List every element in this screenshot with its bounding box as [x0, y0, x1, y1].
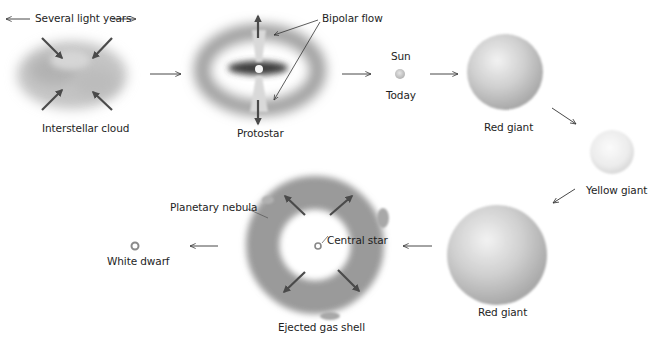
white-dwarf-graphic — [132, 243, 139, 250]
clipped-caption: ▬▬▬▬ ▬ ▬ — [213, 339, 283, 345]
stage-label-white-dwarf: White dwarf — [107, 255, 169, 267]
flow-arrow-icon — [553, 189, 575, 203]
annotation-planetary-nebula: Planetary nebula — [170, 201, 257, 213]
protostar-graphic — [202, 16, 320, 124]
stage-label-today: Today — [386, 89, 416, 101]
central-star-icon — [315, 243, 321, 249]
sun-graphic — [395, 69, 405, 79]
annotation-bipolar-flow: Bipolar flow — [322, 12, 383, 24]
yellow-giant-graphic — [590, 130, 634, 174]
flow-arrow-icon — [552, 108, 576, 124]
red-giant-graphic — [447, 205, 547, 305]
stage-label-interstellar-cloud: Interstellar cloud — [42, 122, 129, 134]
stage-label-sun: Sun — [391, 50, 411, 62]
stage-label-ejected-gas-shell: Ejected gas shell — [278, 321, 365, 333]
interstellar-cloud-graphic — [17, 38, 127, 110]
stage-label-red-giant-2: Red giant — [478, 306, 527, 318]
red-giant-graphic — [467, 34, 543, 110]
annotation-central-star: Central star — [327, 234, 388, 246]
stage-label-yellow-giant: Yellow giant — [586, 184, 647, 196]
stellar-evolution-diagram — [0, 0, 652, 345]
stage-label-red-giant-1: Red giant — [484, 121, 533, 133]
stage-label-protostar: Protostar — [237, 127, 284, 139]
planetary-nebula-graphic — [248, 193, 389, 320]
scale-label: Several light years — [35, 12, 131, 24]
